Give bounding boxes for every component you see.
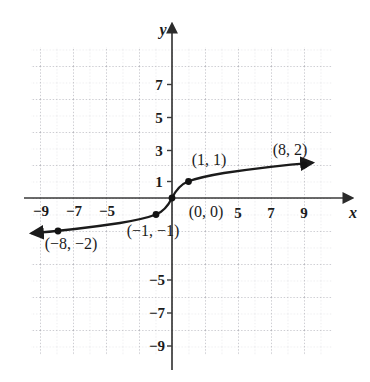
point-1-1	[185, 178, 192, 185]
annotation-point-1-1: (1, 1)	[192, 152, 227, 168]
point-neg8-neg2	[55, 228, 62, 235]
point-origin	[169, 195, 176, 202]
y-tick-label-7: 7	[155, 78, 163, 93]
grid-lines	[31, 47, 332, 355]
annotation-point-neg8-neg2: (−8, −2)	[45, 236, 98, 252]
y-tick-label-5: 5	[155, 111, 163, 126]
annotation-point-origin: (0, 0)	[189, 204, 224, 220]
y-tick-label-neg7: −7	[149, 306, 165, 321]
annotation-point-neg1-neg1: (−1, −1)	[127, 223, 180, 239]
y-tick-label-neg9: −9	[149, 339, 165, 354]
x-tick-label-7: 7	[267, 206, 275, 221]
x-tick-label-9: 9	[300, 206, 308, 221]
point-neg1-neg1	[153, 211, 160, 218]
cube-root-graph-figure: y x −9 −7 −5 5 7 9 7 5 3 1 −5 −7 −9 (−8,…	[0, 0, 370, 382]
y-tick-label-neg5: −5	[149, 273, 165, 288]
x-tick-label-5: 5	[234, 206, 242, 221]
graph-canvas	[0, 0, 370, 382]
y-tick-label-3: 3	[155, 144, 163, 159]
point-8-2	[301, 162, 308, 169]
annotation-point-8-2: (8, 2)	[273, 142, 308, 158]
y-axis-label: y	[159, 22, 166, 38]
x-tick-label-neg9: −9	[33, 204, 49, 219]
x-tick-label-neg5: −5	[99, 204, 115, 219]
x-tick-label-neg7: −7	[66, 204, 82, 219]
x-axis-label: x	[349, 205, 357, 221]
y-tick-label-1: 1	[155, 175, 163, 190]
